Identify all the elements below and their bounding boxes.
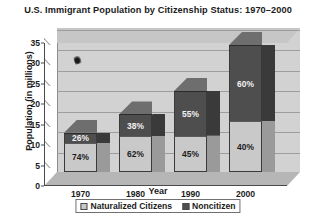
gridline-depth-connector (44, 50, 58, 65)
gridline-depth-connector (44, 132, 58, 147)
y-axis-tick-label: 15 (30, 120, 40, 130)
bar-value-label: 62% (120, 149, 151, 159)
gridline-depth-connector (44, 91, 58, 106)
bar-segment-naturalized[interactable]: 45% (174, 136, 207, 172)
bar-1980[interactable]: 38%62% (119, 114, 152, 172)
legend-swatch-icon (80, 203, 87, 210)
gridline-depth-connector (44, 112, 58, 127)
bar-side-face (97, 133, 110, 172)
bar-segment-noncitizen[interactable]: 26% (64, 133, 97, 143)
plot-floor (44, 172, 300, 186)
bar-side-face (152, 114, 165, 172)
y-axis-tick-label: 35 (30, 38, 40, 48)
gridline-depth-connector (44, 71, 58, 86)
y-axis-tick-label: 30 (30, 58, 40, 68)
bar-segment-noncitizen[interactable]: 38% (119, 114, 152, 136)
legend-item-noncitizen[interactable]: Noncitizen (182, 201, 235, 211)
bar-value-label: 45% (175, 149, 206, 159)
x-axis-title: Year (0, 186, 316, 196)
y-axis-tick-label: 5 (35, 161, 40, 171)
legend-swatch-icon (182, 203, 189, 210)
y-axis-tick-label: 20 (30, 99, 40, 109)
bar-segment-naturalized[interactable]: 40% (229, 121, 262, 172)
y-axis-tick-label: 25 (30, 79, 40, 89)
chart-container: U.S. Immigrant Population by Citizenship… (0, 0, 316, 224)
bar-value-label: 26% (65, 133, 96, 143)
gridline-depth-connector (44, 153, 58, 168)
chart-title: U.S. Immigrant Population by Citizenship… (0, 5, 316, 15)
bar-1970[interactable]: 26%74% (64, 133, 97, 172)
bar-value-label: 55% (175, 109, 206, 119)
legend-label: Noncitizen (192, 201, 235, 211)
bar-segment-naturalized[interactable]: 74% (64, 143, 97, 172)
bar-value-label: 40% (230, 142, 261, 152)
bar-side-face (207, 91, 220, 172)
gridline-depth-connector (44, 30, 58, 45)
y-axis-line (44, 43, 45, 186)
bar-segment-noncitizen[interactable]: 60% (229, 45, 262, 121)
gridline (57, 30, 300, 31)
legend-item-naturalized-citizens[interactable]: Naturalized Citizens (80, 201, 172, 211)
bar-segment-naturalized[interactable]: 62% (119, 136, 152, 172)
bar-value-label: 60% (230, 79, 261, 89)
bar-segment-noncitizen[interactable]: 55% (174, 91, 207, 136)
bar-side-face (262, 45, 275, 172)
chart-legend: Naturalized CitizensNoncitizen (75, 199, 240, 213)
legend-label: Naturalized Citizens (90, 201, 172, 211)
y-axis-tick-label: 10 (30, 140, 40, 150)
bar-value-label: 74% (65, 152, 96, 162)
bar-1990[interactable]: 55%45% (174, 91, 207, 172)
plot-area: 05101520253035 26%74%38%62%55%45%60%40% … (44, 28, 300, 186)
bar-value-label: 38% (120, 121, 151, 131)
bar-2000[interactable]: 60%40% (229, 45, 262, 172)
